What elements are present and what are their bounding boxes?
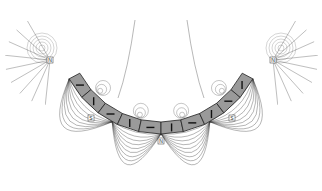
magnet-array	[69, 73, 253, 134]
pole-label: N	[159, 138, 163, 144]
field-lines-canvas: NSNSN	[0, 0, 322, 191]
pole-label: N	[271, 57, 275, 63]
pole-label: N	[48, 57, 52, 63]
magnet-field-diagram: NSNSN	[0, 0, 322, 191]
